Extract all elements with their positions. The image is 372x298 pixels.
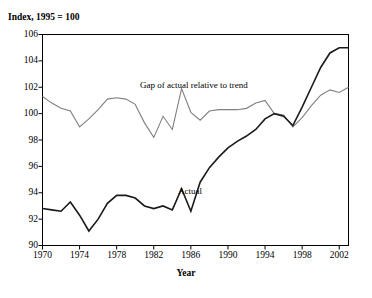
x-tick-label: 1986 xyxy=(181,250,200,260)
y-axis-ticks xyxy=(39,35,43,246)
x-tick-label: 1970 xyxy=(33,250,52,260)
x-tick-label: 1998 xyxy=(293,250,312,260)
x-tick-label: 1994 xyxy=(256,250,275,260)
x-tick-label: 1982 xyxy=(144,250,163,260)
x-tick-label: 1990 xyxy=(218,250,237,260)
x-tick-label: 1974 xyxy=(70,250,89,260)
x-axis-title: Year xyxy=(0,268,372,278)
x-tick-label: 1978 xyxy=(107,250,126,260)
x-axis-ticks xyxy=(43,246,340,250)
gap-series-label: Gap of actual relative to trend xyxy=(140,80,248,90)
series-line-gap xyxy=(43,87,349,137)
series-line-actual xyxy=(43,48,349,231)
x-tick-label: 2002 xyxy=(330,250,349,260)
actual-series-label: Actual xyxy=(178,186,202,196)
chart-container: Index, 1995 = 100 106 104 102 100 98 96 … xyxy=(0,0,372,298)
plot-frame xyxy=(43,35,349,246)
